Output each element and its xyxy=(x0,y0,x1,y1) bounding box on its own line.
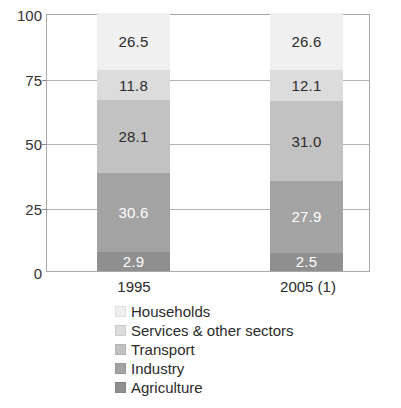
segment-value-label: 31.0 xyxy=(292,134,322,149)
x-axis-label-1995: 1995 xyxy=(96,278,172,295)
segment-value-label: 11.8 xyxy=(119,78,148,93)
y-axis-tick-0: 0 xyxy=(6,266,42,281)
chart-legend: Households Services & other sectors Tran… xyxy=(115,303,294,396)
segment-services-1995[interactable]: 11.8 xyxy=(97,70,170,100)
legend-item-label: Transport xyxy=(131,342,195,357)
y-axis-tick-50: 50 xyxy=(6,137,42,152)
tick-mark-25 xyxy=(42,209,47,210)
legend-item-services[interactable]: Services & other sectors xyxy=(115,322,294,339)
bar-2005[interactable]: 2.5 27.9 31.0 12.1 26.6 xyxy=(270,13,343,271)
segment-transport-2005[interactable]: 31.0 xyxy=(270,101,343,181)
legend-swatch-icon xyxy=(115,363,126,374)
y-axis-tick-25: 25 xyxy=(6,202,42,217)
x-axis-label-2005: 2005 (1) xyxy=(260,278,356,295)
segment-value-label: 12.1 xyxy=(292,78,322,93)
legend-swatch-icon xyxy=(115,344,126,355)
legend-swatch-icon xyxy=(115,325,126,336)
segment-households-1995[interactable]: 26.5 xyxy=(97,13,170,70)
stacked-bar-chart: 100 75 50 25 0 2.9 30.6 28.1 1 xyxy=(0,0,401,408)
legend-item-industry[interactable]: Industry xyxy=(115,360,294,377)
y-axis-tick-100: 100 xyxy=(6,8,42,23)
segment-agriculture-2005[interactable]: 2.5 xyxy=(270,253,343,271)
tick-mark-50 xyxy=(42,144,47,145)
segment-value-label: 28.1 xyxy=(119,129,149,144)
plot-area: 2.9 30.6 28.1 11.8 26.5 2.5 27.9 xyxy=(46,14,370,272)
legend-item-label: Households xyxy=(131,304,210,319)
y-axis-tick-75: 75 xyxy=(6,73,42,88)
legend-item-label: Services & other sectors xyxy=(131,323,294,338)
legend-item-label: Agriculture xyxy=(131,380,203,395)
segment-value-label: 30.6 xyxy=(119,205,149,220)
tick-mark-75 xyxy=(42,80,47,81)
segment-agriculture-1995[interactable]: 2.9 xyxy=(97,252,170,271)
bar-1995[interactable]: 2.9 30.6 28.1 11.8 26.5 xyxy=(97,13,170,271)
legend-swatch-icon xyxy=(115,382,126,393)
segment-services-2005[interactable]: 12.1 xyxy=(270,70,343,101)
segment-transport-1995[interactable]: 28.1 xyxy=(97,100,170,172)
segment-value-label: 2.9 xyxy=(123,254,144,269)
segment-industry-2005[interactable]: 27.9 xyxy=(270,181,343,253)
legend-item-agriculture[interactable]: Agriculture xyxy=(115,379,294,396)
segment-value-label: 2.5 xyxy=(296,254,317,269)
legend-swatch-icon xyxy=(115,306,126,317)
legend-item-transport[interactable]: Transport xyxy=(115,341,294,358)
segment-value-label: 26.5 xyxy=(119,34,149,49)
segment-value-label: 26.6 xyxy=(292,34,322,49)
segment-households-2005[interactable]: 26.6 xyxy=(270,13,343,70)
legend-item-label: Industry xyxy=(131,361,184,376)
legend-item-households[interactable]: Households xyxy=(115,303,294,320)
segment-industry-1995[interactable]: 30.6 xyxy=(97,173,170,252)
segment-value-label: 27.9 xyxy=(292,209,322,224)
y-axis-labels: 100 75 50 25 0 xyxy=(0,14,42,272)
